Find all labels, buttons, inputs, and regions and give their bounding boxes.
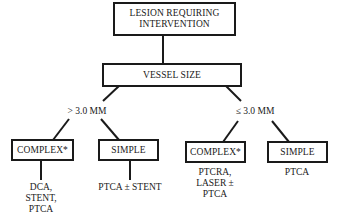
small-complex-label: COMPLEX* [190,147,241,158]
connector-small-to-simple [272,121,289,142]
large-complex-box: COMPLEX* [11,139,74,161]
large-complex-treatment: DCA, STENT, PTCA [25,182,56,215]
condition-small-label: ≤ 3.0 MM [236,106,275,117]
connector-small-to-complex [223,121,238,142]
vessel-size-label: VESSEL SIZE [143,70,201,81]
connector-large-to-simple [101,119,119,140]
connector-large-to-complex [53,119,69,140]
large-simple-box: SIMPLE [98,139,159,161]
large-simple-label: SIMPLE [111,145,145,156]
vessel-size-box: VESSEL SIZE [102,63,242,87]
small-simple-treatment: PTCA [285,167,309,178]
root-label: LESION REQUIRING INTERVENTION [130,8,220,30]
connector-vessel-to-large [103,86,119,101]
small-complex-box: COMPLEX* [185,141,246,163]
small-complex-treatment: PTCRA, LASER ± PTCA [196,167,234,200]
root-box: LESION REQUIRING INTERVENTION [113,2,236,36]
small-simple-label: SIMPLE [280,147,314,158]
connector-vessel-to-small [226,86,241,101]
small-simple-box: SIMPLE [267,141,328,163]
large-complex-label: COMPLEX* [17,145,68,156]
condition-large-label: > 3.0 MM [68,106,107,117]
large-simple-treatment: PTCA ± STENT [98,182,161,193]
